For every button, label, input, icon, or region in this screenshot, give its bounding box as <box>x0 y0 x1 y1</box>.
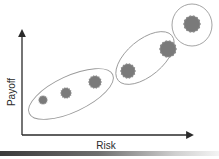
data-point <box>62 89 71 98</box>
data-point <box>90 77 101 88</box>
group-ellipses <box>22 4 212 130</box>
x-axis-label: Risk <box>96 140 116 151</box>
risk-payoff-diagram: Payoff Risk <box>0 0 219 159</box>
group-ellipse-medium <box>107 22 184 95</box>
y-axis-label: Payoff <box>6 78 17 106</box>
group-ellipse-low <box>22 58 121 130</box>
data-point <box>185 17 200 32</box>
data-point <box>40 97 47 104</box>
data-point <box>122 65 135 78</box>
bottom-shadow-bar <box>0 151 219 156</box>
data-point <box>161 42 176 57</box>
